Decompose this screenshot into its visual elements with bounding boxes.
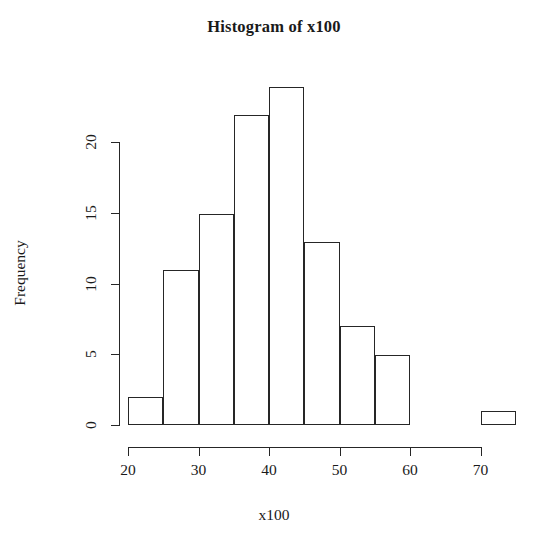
y-tick-text-20: 20: [82, 134, 100, 150]
x-tick-label-30: 30: [176, 461, 222, 479]
x-tick-30: [199, 447, 200, 456]
x-tick-40: [269, 447, 270, 456]
y-tick-10: [111, 284, 119, 285]
bar-40-45: [269, 87, 304, 425]
y-tick-label-10: 10: [76, 274, 106, 294]
x-tick-20: [128, 447, 129, 456]
bar-30-35: [199, 214, 234, 426]
bar-50-55: [340, 326, 375, 425]
y-tick-text-0: 0: [82, 421, 100, 429]
y-tick-text-10: 10: [82, 276, 100, 292]
bar-45-50: [304, 242, 339, 425]
y-axis-label: Frequency: [11, 193, 29, 353]
y-tick-label-20: 20: [76, 132, 106, 152]
histogram-figure: Histogram of x100 0 5 10 15 20 Frequency: [0, 0, 548, 548]
bar-35-40: [234, 115, 269, 425]
y-tick-5: [111, 354, 119, 355]
y-tick-15: [111, 213, 119, 214]
bar-25-30: [163, 270, 198, 425]
x-tick-label-60: 60: [387, 461, 433, 479]
plot-area: 0 5 10 15 20 Frequency 20 30 40 50 60 70…: [0, 0, 548, 548]
y-tick-text-15: 15: [82, 205, 100, 221]
x-tick-label-50: 50: [317, 461, 363, 479]
x-axis-line: [128, 447, 481, 448]
y-tick-20: [111, 142, 119, 143]
x-tick-label-20: 20: [105, 461, 151, 479]
y-tick-text-5: 5: [82, 350, 100, 358]
bar-20-25: [128, 397, 163, 425]
x-tick-60: [410, 447, 411, 456]
y-tick-label-0: 0: [76, 415, 106, 435]
x-tick-label-70: 70: [458, 461, 504, 479]
y-tick-0: [111, 425, 119, 426]
y-axis-line: [119, 142, 120, 426]
x-tick-label-40: 40: [246, 461, 292, 479]
bar-70-75: [481, 411, 516, 425]
x-axis-label: x100: [0, 506, 548, 524]
x-tick-50: [340, 447, 341, 456]
y-tick-label-5: 5: [76, 344, 106, 364]
x-tick-70: [481, 447, 482, 456]
y-tick-label-15: 15: [76, 203, 106, 223]
bar-55-60: [375, 355, 410, 426]
